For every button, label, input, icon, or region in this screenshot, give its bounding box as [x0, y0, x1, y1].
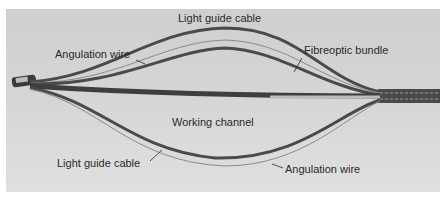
label-working-channel: Working channel [172, 116, 254, 128]
label-light-guide-cable-top: Light guide cable [178, 12, 261, 24]
insertion-tube-sheath [378, 89, 440, 103]
light-guide-cable-top [30, 28, 380, 92]
label-light-guide-cable-bottom: Light guide cable [57, 157, 140, 169]
working-channel-tube [30, 86, 380, 96]
label-angulation-wire-top: Angulation wire [55, 48, 130, 60]
leader-line-angulation-bottom [272, 164, 283, 168]
label-fibreoptic-bundle: Fibreoptic bundle [304, 44, 388, 56]
label-angulation-wire-bottom: Angulation wire [285, 163, 360, 175]
